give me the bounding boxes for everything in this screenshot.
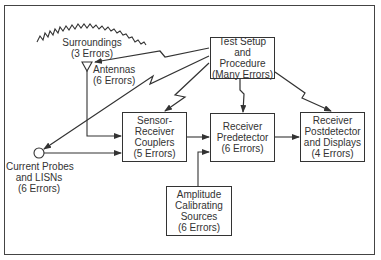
surroundings-label-2: (3 Errors) [62, 48, 122, 59]
couplers-label-1: Sensor- [137, 115, 172, 126]
predetector-label-1: Receiver [223, 121, 262, 132]
receiver-postdetector-box: Receiver Postdetector and Displays (4 Er… [300, 112, 365, 162]
measurement-error-diagram: Test Setup and Procedure (Many Errors) S… [0, 0, 381, 260]
couplers-label-4: (5 Errors) [133, 148, 175, 159]
current-probes-label: Current Probes and LISNs (6 Errors) [6, 161, 72, 194]
predetector-label-3: (6 Errors) [221, 143, 263, 154]
amplitude-label-4: (6 Errors) [178, 222, 220, 233]
antenna-icon [82, 62, 92, 71]
postdetector-label-4: (4 Errors) [311, 148, 353, 159]
test-setup-to-couplers-lightning [165, 63, 209, 111]
antennas-label-1: Antennas [93, 64, 135, 75]
antennas-label: Antennas (6 Errors) [93, 64, 135, 86]
couplers-label-2: Receiver [135, 126, 174, 137]
test-setup-label-3: Procedure [219, 58, 265, 69]
test-setup-to-predetector-lightning [240, 78, 244, 112]
amplitude-sources-box: Amplitude Calibrating Sources (6 Errors) [166, 186, 232, 236]
receiver-predetector-box: Receiver Predetector (6 Errors) [210, 113, 275, 162]
current-probes-label-2: and LISNs [6, 172, 72, 183]
amplitude-label-2: Calibrating [175, 200, 223, 211]
antennas-label-2: (6 Errors) [93, 75, 135, 86]
test-setup-to-postdetector-lightning [275, 72, 331, 111]
surroundings-label: Surroundings (3 Errors) [62, 37, 122, 59]
postdetector-label-2: Postdetector [304, 126, 360, 137]
amplitude-label-1: Amplitude [177, 189, 221, 200]
current-probes-label-3: (6 Errors) [6, 183, 72, 194]
postdetector-label-1: Receiver [313, 115, 352, 126]
amplitude-label-3: Sources [181, 211, 218, 222]
predetector-label-2: Predetector [217, 132, 269, 143]
current-probe-icon [34, 148, 44, 158]
test-setup-box: Test Setup and Procedure (Many Errors) [210, 37, 275, 79]
test-setup-label-4: (Many Errors) [212, 69, 273, 80]
sensor-couplers-box: Sensor- Receiver Couplers (5 Errors) [122, 112, 187, 162]
test-setup-label-1: Test Setup [219, 36, 266, 47]
amplitude-to-predetector-connector [198, 152, 209, 186]
couplers-label-3: Couplers [134, 137, 174, 148]
current-probes-label-1: Current Probes [6, 161, 72, 172]
test-setup-label-2: and [234, 47, 251, 58]
surroundings-label-1: Surroundings [62, 37, 122, 48]
postdetector-label-3: and Displays [304, 137, 361, 148]
